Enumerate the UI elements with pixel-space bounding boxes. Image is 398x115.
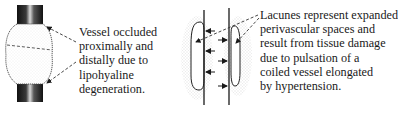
caption-line: Lacunes represent expanded	[260, 8, 398, 22]
right-lacune	[231, 26, 240, 86]
caption-line: degeneration.	[79, 82, 157, 96]
vessel-distal-segment	[17, 84, 43, 102]
caption-line: by hypertension.	[260, 79, 398, 93]
caption-line: due to pulsation of a	[260, 51, 398, 65]
lacunes-caption: Lacunes represent expanded perivascular …	[260, 8, 398, 93]
caption-line: result from tissue damage	[260, 36, 398, 50]
caption-line: perivascular spaces and	[260, 22, 398, 36]
caption-line: distally due to	[79, 53, 157, 67]
caption-line: coiled vessel elongated	[260, 65, 398, 79]
lacunes-illustration	[181, 8, 259, 105]
vessel-proximal-segment	[17, 5, 43, 24]
occluded-vessel-caption: Vessel occluded proximally and distally …	[79, 25, 157, 96]
caption-line: Vessel occluded	[79, 25, 157, 39]
caption-line: lipohyaline	[79, 68, 157, 82]
caption-line: proximally and	[79, 39, 157, 53]
left-lacune	[191, 22, 204, 90]
occluded-vessel-illustration	[6, 5, 76, 102]
